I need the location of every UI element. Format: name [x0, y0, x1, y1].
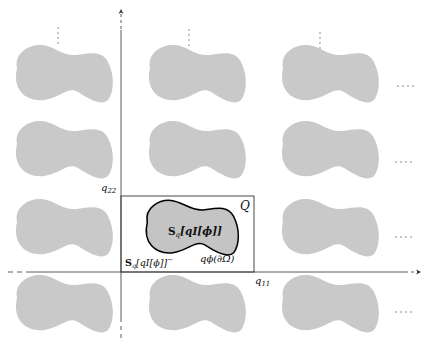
inclusion-r3c1: [16, 199, 113, 257]
inclusion-r1c3: [282, 45, 379, 103]
inclusion-r4c1: [16, 275, 113, 333]
vertical-ellipsis-icon: [319, 32, 321, 49]
vertical-ellipsis-group: [57, 27, 321, 49]
inclusion-r1c2: [149, 45, 246, 103]
vertical-ellipsis-icon: [57, 27, 59, 44]
inclusion-r2c3: [282, 121, 379, 179]
horizontal-ellipsis-icon: [395, 236, 412, 238]
periodic-inclusion-diagram: Q q22 q11 Sq[qI[ϕ]] qϕ(∂Ω) Sq[qI[ϕ]]−: [0, 0, 429, 345]
inclusion-r1c1: [16, 45, 113, 103]
horizontal-ellipsis-group: [395, 85, 414, 313]
horizontal-ellipsis-icon: [395, 311, 412, 313]
boundary-label: qϕ(∂Ω): [200, 253, 235, 264]
inclusion-r2c1: [16, 121, 113, 179]
inclusion-r4c2: [149, 275, 246, 333]
inclusion-r3c3: [282, 199, 379, 257]
horizontal-ellipsis-icon: [395, 161, 412, 163]
vertical-ellipsis-icon: [188, 29, 190, 46]
arrowhead-right-icon: [416, 270, 421, 275]
horizontal-axis-label: q11: [255, 275, 270, 288]
exterior-set-label: Sq[qI[ϕ]]−: [125, 256, 173, 270]
arrowhead-up-icon: [119, 9, 124, 14]
horizontal-ellipsis-icon: [397, 85, 414, 87]
cell-label: Q: [240, 199, 250, 213]
inclusion-lattice: [16, 45, 379, 333]
inclusion-r2c2: [149, 121, 246, 179]
vertical-axis-label: q22: [101, 182, 117, 195]
inclusion-r4c3: [282, 275, 379, 333]
